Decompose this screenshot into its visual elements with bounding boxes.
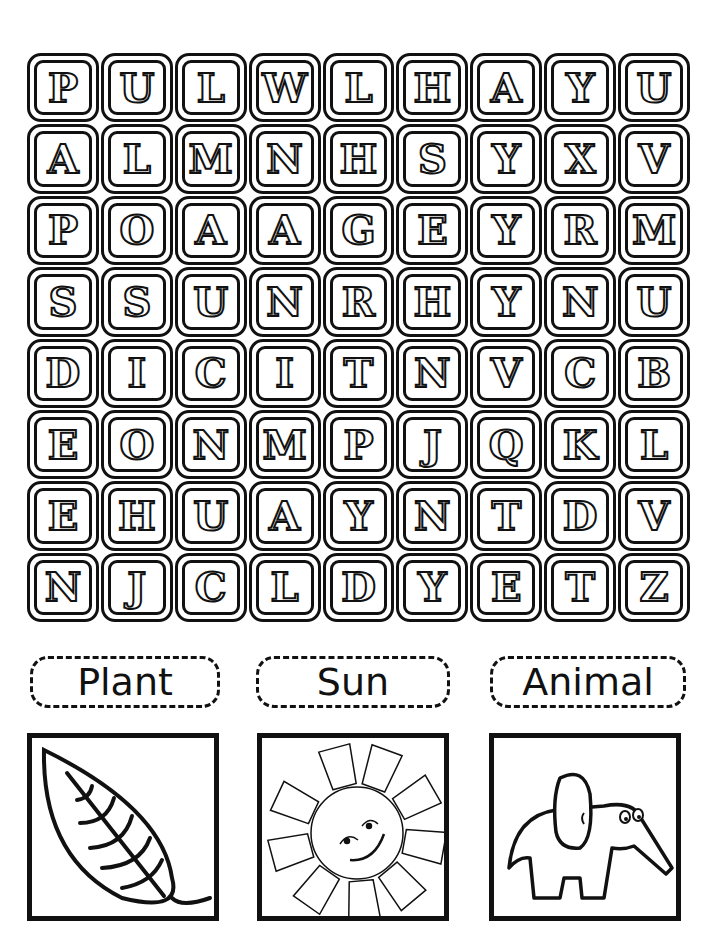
letter-glyph: D: [341, 567, 376, 607]
letter-tile-inner: A: [256, 488, 314, 543]
letter-tile: K: [544, 410, 616, 479]
letter-tile-inner: Y: [477, 203, 535, 258]
letter-tile: A: [249, 481, 321, 550]
letter-glyph: Y: [566, 68, 595, 108]
letter-tile: S: [101, 267, 173, 336]
letter-tile: A: [27, 124, 99, 193]
letter-tile: L: [101, 124, 173, 193]
letter-tile: I: [101, 339, 173, 408]
letter-tile: Y: [544, 53, 616, 122]
letter-tile: S: [396, 124, 468, 193]
letter-tile: D: [544, 481, 616, 550]
letter-tile-inner: H: [403, 274, 461, 329]
letter-tile-inner: A: [477, 60, 535, 115]
letter-tile: R: [323, 267, 395, 336]
letter-tile-inner: U: [625, 60, 683, 115]
letter-tile: Z: [618, 553, 690, 622]
letter-tile: J: [101, 553, 173, 622]
letter-tile-inner: E: [403, 203, 461, 258]
word-labels: Plant Sun Animal: [0, 656, 726, 716]
word-label-plant: Plant: [30, 656, 220, 708]
letter-tile-inner: D: [34, 346, 92, 401]
letter-tile-inner: V: [477, 346, 535, 401]
letter-tile: M: [175, 124, 247, 193]
letter-glyph: Y: [492, 139, 521, 179]
letter-glyph: Y: [492, 282, 521, 322]
letter-glyph: R: [564, 210, 597, 250]
letter-tile-inner: G: [330, 203, 388, 258]
letter-tile-inner: A: [34, 131, 92, 186]
letter-glyph: A: [47, 139, 78, 179]
letter-tile: L: [323, 53, 395, 122]
letter-glyph: H: [413, 68, 451, 108]
letter-glyph: E: [417, 210, 448, 250]
letter-tile-inner: Y: [477, 274, 535, 329]
leaf-icon: [32, 738, 214, 916]
letter-tile: C: [544, 339, 616, 408]
letter-glyph: L: [271, 567, 299, 607]
letter-tile: N: [544, 267, 616, 336]
letter-tile: T: [544, 553, 616, 622]
letter-glyph: T: [565, 567, 595, 607]
letter-glyph: M: [632, 210, 676, 250]
letter-glyph: C: [195, 353, 227, 393]
letter-tile: W: [249, 53, 321, 122]
letter-glyph: R: [342, 282, 375, 322]
letter-glyph: S: [418, 139, 447, 179]
letter-glyph: H: [340, 139, 378, 179]
letter-glyph: C: [564, 353, 596, 393]
letter-tile-inner: P: [34, 60, 92, 115]
letter-tile-inner: S: [108, 274, 166, 329]
letter-tile-inner: O: [108, 203, 166, 258]
letter-tile: H: [323, 124, 395, 193]
letter-glyph: D: [46, 353, 81, 393]
letter-glyph: P: [48, 68, 78, 108]
letter-tile: M: [249, 410, 321, 479]
letter-tile-inner: N: [551, 274, 609, 329]
letter-tile: B: [618, 339, 690, 408]
letter-tile: E: [470, 553, 542, 622]
letter-tile: U: [618, 53, 690, 122]
letter-tile-inner: M: [256, 417, 314, 472]
letter-tile: S: [27, 267, 99, 336]
letter-glyph: P: [343, 425, 373, 465]
letter-grid: PULWLHAYUALMNHSYXVPOAAGEYRMSSUNRHYNUDICI…: [26, 52, 691, 623]
letter-tile-inner: U: [182, 274, 240, 329]
letter-glyph: U: [193, 282, 228, 322]
letter-glyph: N: [192, 425, 229, 465]
letter-tile-inner: A: [182, 203, 240, 258]
letter-tile-inner: H: [403, 60, 461, 115]
letter-glyph: H: [413, 282, 451, 322]
letter-glyph: T: [344, 353, 374, 393]
letter-tile-inner: U: [182, 488, 240, 543]
letter-tile-inner: C: [551, 346, 609, 401]
letter-tile: E: [27, 410, 99, 479]
letter-glyph: Z: [639, 567, 668, 607]
letter-tile: P: [27, 53, 99, 122]
letter-tile-inner: P: [34, 203, 92, 258]
letter-tile-inner: J: [108, 560, 166, 615]
letter-glyph: S: [122, 282, 151, 322]
letter-tile: G: [323, 196, 395, 265]
letter-tile-inner: U: [108, 60, 166, 115]
letter-tile: N: [396, 481, 468, 550]
letter-tile: I: [249, 339, 321, 408]
letter-tile-inner: E: [34, 417, 92, 472]
letter-tile-inner: N: [256, 274, 314, 329]
letter-tile-inner: L: [256, 560, 314, 615]
letter-tile-inner: D: [330, 560, 388, 615]
letter-tile: A: [249, 196, 321, 265]
letter-tile-inner: D: [551, 488, 609, 543]
picture-sun: [257, 733, 449, 921]
letter-tile-inner: C: [182, 560, 240, 615]
letter-glyph: Y: [418, 567, 447, 607]
letter-tile: O: [101, 196, 173, 265]
letter-tile-inner: N: [256, 131, 314, 186]
letter-tile: J: [396, 410, 468, 479]
letter-tile-inner: L: [108, 131, 166, 186]
letter-glyph: L: [197, 68, 225, 108]
letter-tile: A: [470, 53, 542, 122]
letter-tile-inner: E: [34, 488, 92, 543]
letter-tile-inner: T: [477, 488, 535, 543]
letter-tile: L: [249, 553, 321, 622]
